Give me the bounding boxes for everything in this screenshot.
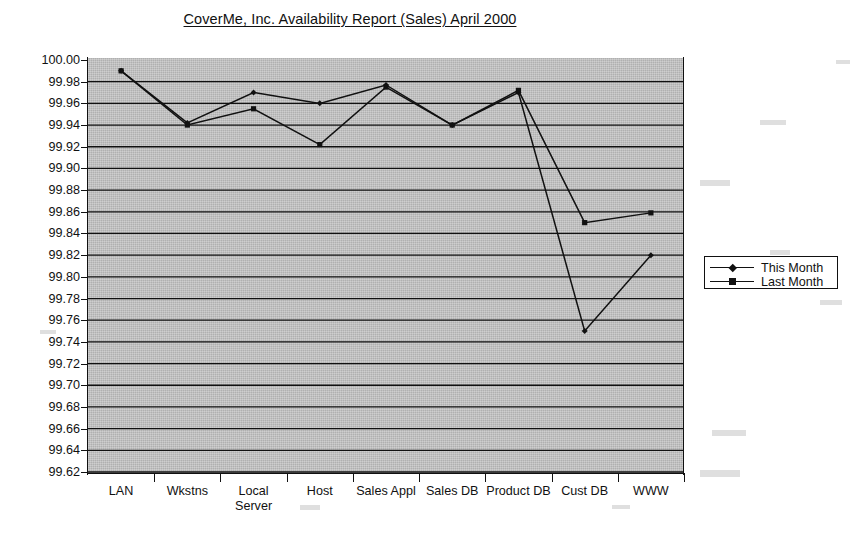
x-axis-tick-mark [485, 474, 486, 482]
x-axis-tick-mark [287, 474, 288, 482]
y-axis-tick-mark [81, 342, 88, 343]
y-axis-tick-mark [81, 212, 88, 213]
legend-item: This Month [705, 260, 839, 275]
plot-right-border [683, 57, 684, 475]
x-axis-tick-label-line: WWW [633, 484, 669, 498]
y-axis-tick-label: 99.64 [14, 444, 80, 456]
y-axis-tick-label: 99.62 [14, 466, 80, 478]
chart-title-text: CoverMe, Inc. Availability Report (Sales… [184, 11, 517, 27]
y-axis-tick-mark [81, 299, 88, 300]
y-axis-tick-label: 99.76 [14, 314, 80, 326]
y-axis-tick-mark [81, 168, 88, 169]
y-axis-tick-label: 99.70 [14, 379, 80, 391]
x-axis-tick-label: WWW [618, 484, 684, 499]
y-axis-tick-mark [81, 147, 88, 148]
x-axis-tick-mark [618, 474, 619, 482]
y-axis-tick-label: 99.74 [14, 336, 80, 348]
x-axis-tick-mark [684, 474, 685, 482]
x-axis-tick-mark [353, 474, 354, 482]
y-axis-tick-label: 99.84 [14, 227, 80, 239]
y-axis-tick-mark [81, 60, 88, 61]
legend-label: This Month [761, 261, 823, 275]
data-point-square [251, 106, 256, 111]
y-axis-tick-label: 99.98 [14, 76, 80, 88]
data-point-square [317, 142, 322, 147]
x-axis-tick-mark [552, 474, 553, 482]
data-point-square [383, 85, 388, 90]
y-axis-tick-label: 99.88 [14, 184, 80, 196]
series-line-this-month [121, 71, 651, 331]
y-axis-tick-mark [81, 407, 88, 408]
y-axis-tick-mark [81, 190, 88, 191]
y-axis-tick-label: 99.90 [14, 162, 80, 174]
x-axis-tick-mark [419, 474, 420, 482]
y-axis-tick-mark [81, 125, 88, 126]
x-axis-tick-label-line: Product DB [486, 484, 550, 498]
y-axis-tick-label: 99.78 [14, 293, 80, 305]
y-axis-tick-label: 99.96 [14, 97, 80, 109]
x-axis-tick-label-line: Sales DB [426, 484, 479, 498]
y-axis-tick-label: 99.72 [14, 358, 80, 370]
x-axis-tick-label-line: Cust DB [561, 484, 608, 498]
x-axis-line [87, 473, 685, 474]
legend-marker-diamond [729, 264, 737, 272]
x-axis-tick-label-line: LAN [109, 484, 134, 498]
y-axis-labels: 100.0099.9899.9699.9499.9299.9099.8899.8… [8, 0, 80, 541]
y-axis-line [87, 57, 88, 475]
x-axis-tick-label: Host [287, 484, 353, 499]
y-axis-tick-mark [81, 429, 88, 430]
plot-area [88, 58, 684, 474]
y-axis-tick-mark [81, 82, 88, 83]
y-axis-tick-mark [81, 255, 88, 256]
y-axis-tick-label: 99.66 [14, 423, 80, 435]
y-axis-tick-mark [81, 103, 88, 104]
y-axis-tick-mark [81, 385, 88, 386]
legend-marker-square [729, 278, 736, 285]
x-axis-tick-mark [220, 474, 221, 482]
data-point-diamond [251, 90, 257, 96]
y-axis-tick-label: 99.80 [14, 271, 80, 283]
y-axis-tick-mark [81, 450, 88, 451]
legend-label: Last Month [761, 275, 823, 289]
data-point-square [450, 122, 455, 127]
x-axis-tick-label: Cust DB [552, 484, 618, 499]
x-axis-tick-label-line: Local [238, 484, 268, 498]
x-axis-tick-label-line: Host [307, 484, 333, 498]
y-axis-tick-label: 99.68 [14, 401, 80, 413]
x-axis-tick-label: Sales Appl [353, 484, 419, 499]
x-axis-tick-label: LocalServer [220, 484, 286, 514]
y-axis-tick-mark [81, 233, 88, 234]
y-axis-tick-mark [81, 277, 88, 278]
y-axis-tick-label: 100.00 [14, 54, 80, 66]
availability-report-chart: CoverMe, Inc. Availability Report (Sales… [0, 0, 856, 541]
y-axis-tick-mark [81, 472, 88, 473]
y-axis-tick-label: 99.86 [14, 206, 80, 218]
y-axis-tick-label: 99.82 [14, 249, 80, 261]
x-axis-tick-label-line: Sales Appl [356, 484, 416, 498]
y-axis-tick-label: 99.92 [14, 141, 80, 153]
x-axis-tick-label: Wkstns [154, 484, 220, 499]
legend-swatch [709, 262, 755, 274]
x-axis-tick-mark [154, 474, 155, 482]
data-point-square [119, 68, 124, 73]
data-point-square [648, 210, 653, 215]
data-point-square [516, 88, 521, 93]
data-point-square [582, 220, 587, 225]
y-axis-tick-mark [81, 364, 88, 365]
x-axis-tick-label: LAN [88, 484, 154, 499]
plot-lines [88, 58, 684, 474]
chart-legend: This MonthLast Month [704, 256, 838, 289]
legend-item: Last Month [705, 274, 839, 289]
data-point-square [185, 122, 190, 127]
data-point-diamond [317, 100, 323, 106]
x-axis-tick-label: Sales DB [419, 484, 485, 499]
x-axis-tick-label-line: Wkstns [167, 484, 208, 498]
x-axis-tick-label-line: Server [220, 499, 286, 514]
y-axis-tick-mark [81, 320, 88, 321]
legend-swatch [709, 276, 755, 288]
x-axis-tick-label: Product DB [485, 484, 551, 499]
y-axis-tick-label: 99.94 [14, 119, 80, 131]
chart-title: CoverMe, Inc. Availability Report (Sales… [0, 11, 700, 27]
